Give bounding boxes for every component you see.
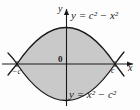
y-axis-arrowhead [64,9,69,15]
origin-label: 0 [58,55,63,64]
x-axis-label: x [128,63,132,73]
parabola-region-figure: y = c² − x² y = x² − c² y x 0 −c c [0,0,140,110]
lower-curve-equation-label: y = x² − c² [69,89,116,100]
upper-curve-equation-label: y = c² − x² [71,10,118,21]
y-axis-label: y [58,4,62,14]
tick-label-neg-c: −c [12,68,21,76]
tick-label-pos-c: c [111,67,115,75]
